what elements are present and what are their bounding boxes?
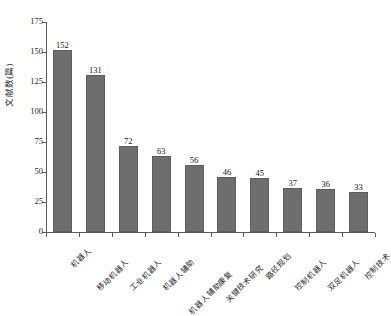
x-tick-mark — [375, 233, 376, 237]
x-tick-mark — [211, 233, 212, 237]
bar: 131 — [86, 75, 105, 232]
y-axis-label: 文献数(篇) — [2, 35, 16, 135]
bar-value-label: 33 — [354, 182, 363, 192]
bar-value-label: 37 — [288, 178, 297, 188]
bar-value-label: 63 — [157, 146, 166, 156]
y-tick-label: 100 — [30, 106, 43, 117]
y-tick-label: 75 — [35, 136, 44, 147]
x-category-label: 机器人 — [76, 237, 101, 262]
x-tick-mark — [309, 233, 310, 237]
bar-value-label: 45 — [256, 168, 265, 178]
x-category-label: 机器人辅助 — [179, 237, 216, 274]
x-category-label-text: 机器人 — [68, 245, 93, 270]
y-tick-label: 25 — [35, 196, 44, 207]
bar-value-label: 56 — [190, 155, 199, 165]
x-category-label-text: 移动机器人 — [94, 256, 131, 293]
bar: 56 — [185, 165, 204, 232]
x-tick-mark — [178, 233, 179, 237]
bar: 63 — [152, 156, 171, 232]
bar: 46 — [217, 177, 236, 232]
y-tick-label: 125 — [30, 76, 43, 87]
bar: 37 — [283, 188, 302, 232]
bar: 36 — [316, 189, 335, 232]
x-tick-mark — [112, 233, 113, 237]
x-tick-mark — [145, 233, 146, 237]
bar: 152 — [53, 50, 72, 232]
y-tick-label: 175 — [30, 16, 43, 27]
bar: 45 — [250, 178, 269, 232]
y-tick-label: 150 — [30, 46, 43, 57]
x-tick-mark — [79, 233, 80, 237]
plot-area: 0255075100125150175 15213172635646453736… — [46, 22, 375, 233]
bar: 33 — [349, 192, 368, 232]
x-tick-mark — [342, 233, 343, 237]
bar-value-label: 36 — [321, 179, 330, 189]
y-tick-label: 0 — [39, 226, 43, 237]
bar: 72 — [119, 146, 138, 232]
bar-value-label: 46 — [223, 167, 232, 177]
x-category-label-text: 控制机器人 — [292, 256, 329, 293]
x-tick-mark — [243, 233, 244, 237]
x-tick-mark — [46, 233, 47, 237]
y-tick-label: 50 — [35, 166, 44, 177]
x-tick-mark — [276, 233, 277, 237]
bar-value-label: 72 — [124, 136, 133, 146]
bar-value-label: 131 — [89, 65, 102, 75]
bar-value-label: 152 — [56, 40, 69, 50]
